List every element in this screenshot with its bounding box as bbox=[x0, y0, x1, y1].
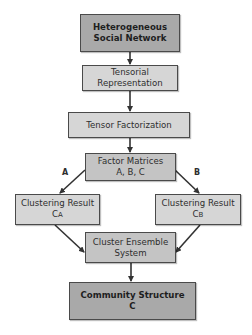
node-line: System bbox=[114, 248, 146, 259]
node-line: Factor Matrices bbox=[98, 156, 164, 167]
node-clustering-result-b: Clustering Result CB bbox=[155, 194, 241, 225]
node-clustering-result-a: Clustering Result CA bbox=[15, 194, 100, 225]
node-line: Representation bbox=[97, 78, 162, 89]
node-line: Heterogeneous bbox=[93, 22, 167, 33]
node-tensorial-representation: Tensorial Representation bbox=[82, 65, 178, 91]
arrow-n5-n7 bbox=[55, 225, 84, 252]
node-cluster-ensemble-system: Cluster Ensemble System bbox=[85, 232, 176, 263]
node-line: Clustering Result bbox=[161, 198, 234, 209]
edge-label-a: A bbox=[62, 168, 68, 177]
node-tensor-factorization: Tensor Factorization bbox=[68, 112, 190, 138]
node-factor-matrices: Factor Matrices A, B, C bbox=[85, 153, 176, 181]
node-line: Cluster Ensemble bbox=[93, 237, 168, 248]
node-heterogeneous-social-network: Heterogeneous Social Network bbox=[80, 14, 180, 52]
node-line: C bbox=[129, 301, 135, 312]
node-line: CA bbox=[52, 209, 63, 221]
node-line: Clustering Result bbox=[21, 198, 94, 209]
node-line: CB bbox=[193, 209, 204, 221]
node-line: Social Network bbox=[94, 33, 167, 44]
node-line: Tensorial bbox=[111, 67, 149, 78]
node-line: Community Structure bbox=[80, 290, 184, 301]
node-line: Tensor Factorization bbox=[86, 120, 171, 131]
arrow-n6-n7 bbox=[176, 225, 200, 252]
node-line: A, B, C bbox=[116, 167, 145, 178]
node-community-structure: Community Structure C bbox=[69, 282, 196, 320]
edge-label-b: B bbox=[194, 168, 200, 177]
